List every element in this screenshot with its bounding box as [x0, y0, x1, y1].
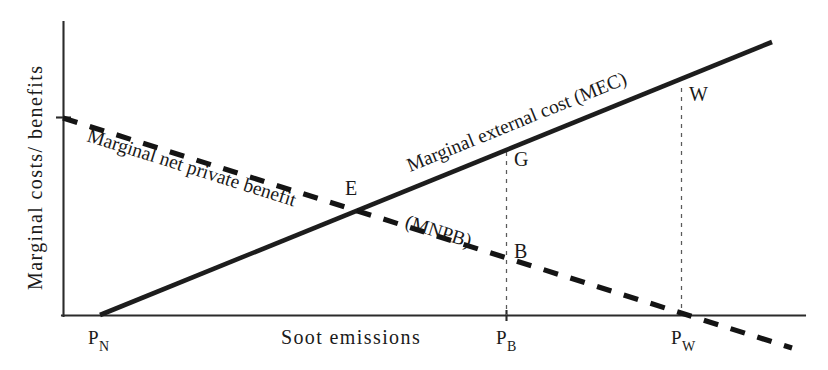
point-label-e: E: [345, 177, 357, 199]
x-tick-label-pb-base: P: [496, 327, 507, 348]
x-tick-label-pw-base: P: [671, 327, 682, 348]
point-label-w: W: [689, 83, 708, 105]
x-tick-label-pb-sub: B: [507, 339, 516, 354]
point-label-b: B: [514, 240, 527, 262]
y-axis-title: Marginal costs/ benefits: [24, 65, 47, 290]
x-tick-label-pw: P W: [671, 327, 696, 354]
diagram-canvas: Marginal costs/ benefits Soot emissions …: [0, 0, 828, 370]
mnpb-curve-label: Marginal net private benefit: [85, 125, 300, 211]
x-tick-label-pn-base: P: [88, 327, 99, 348]
point-label-g: G: [514, 148, 528, 170]
x-tick-label-pn: P N: [88, 327, 109, 354]
x-tick-label-pb: P B: [496, 327, 516, 354]
mnpb-abbrev-label: (MNPB): [402, 211, 474, 253]
x-tick-label-pw-sub: W: [682, 339, 696, 354]
x-axis-title: Soot emissions: [281, 326, 421, 348]
x-tick-label-pn-sub: N: [99, 339, 109, 354]
economics-externality-diagram: Marginal costs/ benefits Soot emissions …: [0, 0, 828, 370]
